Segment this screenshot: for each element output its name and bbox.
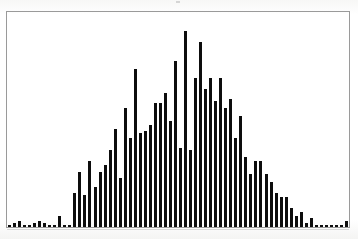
histogram-bar — [149, 125, 152, 227]
histogram-bar — [310, 218, 313, 227]
histogram-bar — [184, 31, 187, 227]
histogram-bar — [129, 138, 132, 227]
histogram-bar — [285, 197, 288, 227]
histogram-bar — [244, 157, 247, 227]
histogram-bar — [239, 116, 242, 227]
histogram-bar — [99, 172, 102, 227]
baseline-smudge — [7, 229, 349, 230]
histogram-bar — [124, 108, 127, 227]
histogram-bar — [219, 78, 222, 227]
histogram-bar — [169, 121, 172, 228]
histogram-bar — [88, 161, 91, 227]
histogram-bar — [194, 78, 197, 227]
histogram-bar — [139, 133, 142, 227]
histogram-bar — [38, 221, 41, 227]
histogram-bar — [43, 223, 46, 227]
histogram-bar — [189, 150, 192, 227]
histogram-bar — [335, 225, 338, 227]
histogram-bar — [73, 193, 76, 227]
histogram-bar — [265, 174, 268, 227]
histogram-bar — [179, 148, 182, 227]
histogram-bar — [325, 225, 328, 227]
histogram-bar — [199, 42, 202, 227]
histogram-bar — [104, 165, 107, 227]
histogram-bar — [234, 138, 237, 227]
histogram-bar — [209, 78, 212, 227]
histogram-bar — [159, 103, 162, 227]
histogram-bar — [164, 93, 167, 227]
histogram-bar — [58, 216, 61, 227]
histogram-bar — [13, 223, 16, 227]
histogram-bar — [23, 225, 26, 227]
histogram-bar — [114, 129, 117, 227]
histogram-bar — [174, 61, 177, 227]
histogram-bar — [33, 223, 36, 227]
histogram-bar — [315, 225, 318, 227]
histogram-bar — [254, 161, 257, 227]
histogram-bar — [68, 225, 71, 227]
histogram-bar — [300, 212, 303, 227]
histogram-bar — [290, 208, 293, 227]
histogram-bar — [345, 221, 348, 227]
histogram-bar — [280, 197, 283, 227]
histogram-bar — [214, 101, 217, 227]
histogram-bar — [270, 182, 273, 227]
histogram-bar — [83, 195, 86, 227]
histogram-bar — [154, 103, 157, 227]
histogram-bar — [275, 193, 278, 227]
histogram-bar — [94, 187, 97, 227]
histogram-bar — [340, 225, 343, 227]
histogram-bar — [144, 131, 147, 227]
plot-frame — [6, 11, 350, 228]
histogram-bar — [109, 150, 112, 227]
histogram-bar — [249, 174, 252, 227]
histogram-bar — [28, 225, 31, 227]
histogram-bar — [78, 172, 81, 227]
histogram-bar — [259, 161, 262, 227]
histogram-bar — [204, 89, 207, 227]
histogram-bar — [18, 221, 21, 227]
scan-artifact-mark — [176, 1, 180, 3]
histogram-bar — [119, 178, 122, 227]
histogram-bar — [63, 225, 66, 227]
histogram-bar — [224, 108, 227, 227]
bars-layer — [7, 12, 349, 227]
histogram-bar — [53, 225, 56, 227]
histogram-bar — [48, 225, 51, 227]
histogram-bar — [229, 99, 232, 227]
histogram-bar — [305, 223, 308, 227]
histogram-bar — [295, 216, 298, 227]
histogram-bar — [330, 225, 333, 227]
histogram-figure — [0, 0, 358, 239]
histogram-bar — [8, 225, 11, 227]
histogram-bar — [134, 69, 137, 227]
histogram-bar — [320, 225, 323, 227]
